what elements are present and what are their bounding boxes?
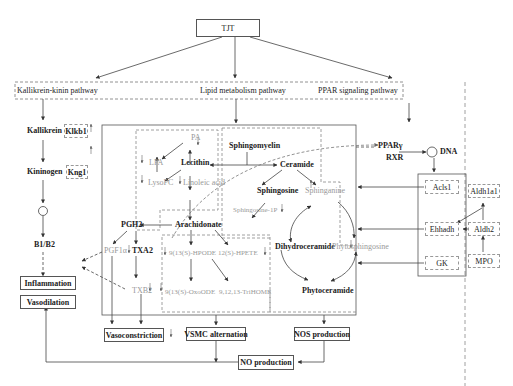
trihome-node: 9,12,13-TriHOME: [219, 287, 271, 297]
sphinganine-node: Sphinganine: [305, 186, 345, 196]
b1-b2-receptor-node: B1/B2: [34, 240, 55, 250]
aldh1a1-label: Aldh1a1: [470, 187, 498, 196]
dna-node: DNA: [440, 147, 457, 157]
aldh2-gene-box: Aldh2: [468, 222, 500, 236]
klkb1-label: Klkb1: [65, 127, 86, 136]
ppar-gamma-node: PPARγ: [378, 141, 402, 151]
aldh1a1-gene-box: Aldh1a1: [468, 184, 500, 198]
acls1-gene-box: Acls1: [425, 180, 459, 194]
sphingomyelin-node: Sphingomyelin: [229, 141, 280, 151]
inflammation-label: Inflammation: [24, 279, 71, 288]
txb2-node: TXB2: [132, 286, 152, 296]
kallikrein-node: Kallikrein: [27, 126, 62, 136]
gk-label: GK: [436, 259, 448, 268]
kininogen-node: Kininogen: [27, 167, 63, 177]
lecithin-node: Lecithin: [181, 158, 209, 168]
lpa-node: LPA: [149, 158, 163, 168]
vasoconstriction-box: Vasoconstriction: [104, 328, 164, 342]
gk-gene-box: GK: [425, 256, 459, 270]
root-node-tjt: TJT: [196, 19, 260, 37]
sphingosine-1p-node: Sphingosine-1P: [233, 205, 277, 215]
ppar-signaling-pathway-label: PPAR signaling pathway: [318, 86, 398, 96]
arachidonate-node: Arachidonate: [175, 220, 222, 230]
oxoode-node: 9(13(S)-OxoODE: [165, 287, 215, 297]
vasodilation-box: Vasodilation: [20, 295, 76, 309]
acls1-label: Acls1: [433, 183, 452, 192]
ehhadh-gene-box: Ehhadh: [425, 222, 459, 236]
kng1-gene-box: Kng1: [66, 165, 88, 179]
phytosphingosine-node: Phytosphingosine: [332, 242, 389, 252]
pgh2-node: PGH2: [121, 220, 142, 230]
lysopc-node: LysoPC: [148, 178, 173, 188]
pgf1a-node: PGF1α: [104, 246, 127, 256]
sphingosine-node: Sphingosine: [257, 186, 298, 196]
klkb1-gene-box: Klkb1: [64, 124, 88, 138]
kallikrein-kinin-pathway-label: Kallikrein-kinin pathway: [17, 86, 98, 96]
mpo-gene-box: MPO: [468, 254, 500, 268]
vsmc-alternation-box: VSMC alternation: [186, 327, 246, 341]
inflammation-box: Inflammation: [20, 276, 76, 290]
hpete-node: 12(S)-HPETE: [218, 248, 258, 258]
dihydroceramide-node: Dihydroceramide: [275, 242, 335, 252]
nos-production-label: NOS production: [294, 330, 350, 339]
vsmc-alternation-label: VSMC alternation: [184, 330, 247, 339]
mpo-label: MPO: [475, 257, 492, 266]
aldh2-label: Aldh2: [474, 225, 494, 234]
root-label: TJT: [222, 24, 235, 33]
nos-production-box: NOS production: [294, 327, 350, 341]
vasoconstriction-label: Vasoconstriction: [106, 331, 163, 340]
vasodilation-label: Vasodilation: [27, 298, 69, 307]
rxr-node: RXR: [386, 153, 403, 163]
phytoceramide-node: Phytoceramide: [302, 286, 354, 296]
txa2-node: TXA2: [132, 246, 153, 256]
no-production-box: NO production: [238, 355, 294, 370]
lipid-metabolism-pathway-label: Lipid metabolism pathway: [200, 86, 286, 96]
linoleic-acid-node: Linoleic acid: [183, 178, 225, 188]
ceramide-node: Ceramide: [280, 160, 314, 170]
ehhadh-label: Ehhadh: [430, 225, 454, 234]
kng1-label: Kng1: [68, 168, 87, 177]
no-production-label: NO production: [240, 358, 292, 367]
hpode-node: 9(13(S)-HPODE: [169, 248, 216, 258]
pa-node: PA: [191, 133, 201, 143]
